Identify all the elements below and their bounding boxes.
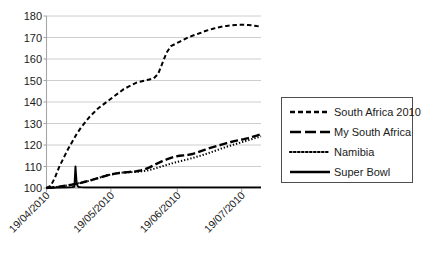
y-axis-tick-labels: 100110120130140150160170180 <box>24 10 47 194</box>
y-tick-label: 120 <box>24 139 42 151</box>
y-tick-label: 150 <box>24 75 42 87</box>
y-tick-label: 140 <box>24 96 42 108</box>
series-line <box>47 134 262 188</box>
legend-label: My South Africa <box>334 126 412 138</box>
x-axis-tick-labels: 19/04/201019/05/201019/06/201019/07/2010 <box>6 189 247 235</box>
y-tick-label: 180 <box>24 10 42 22</box>
series-group <box>47 25 262 188</box>
legend-label: Super Bowl <box>334 166 390 178</box>
x-tick-label: 19/04/2010 <box>6 189 52 235</box>
gridlines-group <box>47 16 262 188</box>
series-line <box>47 25 262 188</box>
legend-label: Namibia <box>334 146 375 158</box>
y-tick-label: 110 <box>24 161 42 173</box>
x-tick-label: 19/07/2010 <box>201 189 247 235</box>
y-tick-label: 160 <box>24 53 42 65</box>
y-tick-label: 170 <box>24 32 42 44</box>
x-tick-label: 19/06/2010 <box>137 189 183 235</box>
y-tick-label: 130 <box>24 118 42 130</box>
series-line <box>47 136 262 188</box>
line-chart: 100110120130140150160170180 19/04/201019… <box>0 0 427 254</box>
chart-canvas: 100110120130140150160170180 19/04/201019… <box>0 0 427 254</box>
x-tick-label: 19/05/2010 <box>71 189 117 235</box>
legend-label: South Africa 2010 <box>334 106 421 118</box>
x-axis-tickmarks <box>47 188 242 192</box>
legend: South Africa 2010My South AfricaNamibiaS… <box>282 98 421 183</box>
